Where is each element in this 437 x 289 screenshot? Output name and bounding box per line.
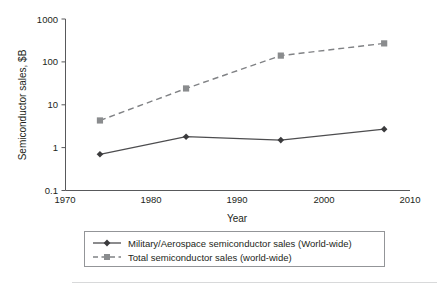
legend-marker-square [104, 254, 110, 260]
series-total [97, 40, 387, 123]
x-tick-label-2000: 2000 [313, 194, 334, 205]
y-tick-label-10: 10 [47, 99, 58, 110]
x-axis-title: Year [227, 213, 248, 224]
series-layer [97, 40, 388, 157]
data-point [381, 126, 388, 133]
series-line-0 [100, 129, 384, 154]
y-axis-tick-labels: 1000 100 10 1 0.1 [37, 14, 58, 197]
chart-legend: Military/Aerospace semiconductor sales (… [85, 232, 385, 267]
y-tick-label-100: 100 [42, 56, 58, 67]
y-tick-label-1000: 1000 [37, 14, 58, 25]
x-tick-label-1980: 1980 [140, 194, 161, 205]
x-tick-label-1970: 1970 [54, 194, 75, 205]
data-point [97, 117, 103, 123]
data-point [183, 133, 190, 140]
data-point [278, 53, 284, 59]
series-military [97, 126, 388, 158]
x-tick-label-1990: 1990 [226, 194, 247, 205]
legend-label-total: Total semiconductor sales (world-wide) [128, 252, 292, 263]
x-axis-tick-labels: 1970 1980 1990 2000 2010 [54, 194, 420, 205]
data-point [97, 151, 104, 158]
legend-entry-military[interactable]: Military/Aerospace semiconductor sales (… [93, 238, 352, 249]
legend-label-military: Military/Aerospace semiconductor sales (… [128, 238, 352, 249]
series-line-1 [100, 43, 384, 120]
x-tick-label-2010: 2010 [399, 194, 420, 205]
y-axis-title: Semiconductor sales, $B [17, 49, 28, 160]
semiconductor-sales-log-line-chart: 1000 100 10 1 0.1 Semiconductor sales, $… [0, 0, 437, 289]
y-axis-ticks [62, 19, 66, 191]
axes-group [66, 19, 411, 191]
data-point [278, 137, 285, 144]
y-tick-label-1: 1 [53, 142, 58, 153]
chart-container: 1000 100 10 1 0.1 Semiconductor sales, $… [0, 0, 437, 289]
data-point [381, 40, 387, 46]
data-point [183, 85, 189, 91]
